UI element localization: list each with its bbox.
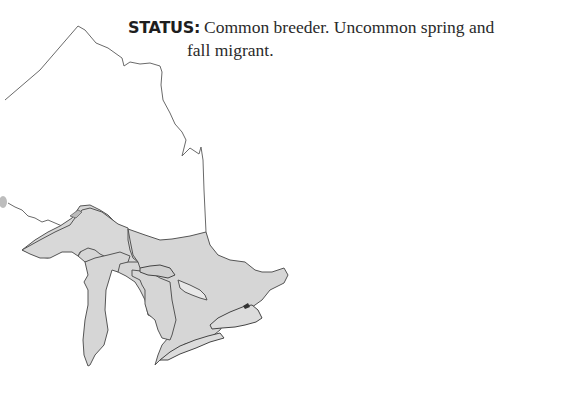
status-label: STATUS: (128, 18, 200, 37)
edge-smudge (0, 196, 7, 208)
status-line-1: Common breeder. Uncommon spring and (204, 17, 494, 37)
ontario-west-boundary (8, 203, 70, 226)
status-text: STATUS:Common breeder. Uncommon spring a… (128, 16, 573, 61)
status-line-2: fall migrant. (128, 39, 573, 61)
